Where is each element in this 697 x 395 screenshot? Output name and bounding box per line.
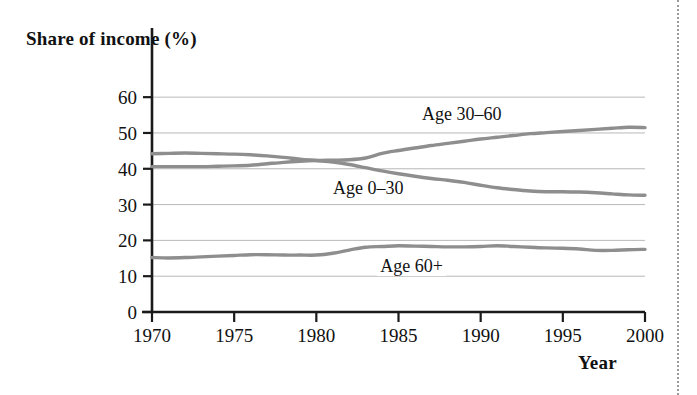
series-label-age-0-30: Age 0–30 [330,178,407,198]
y-axis-title: Share of income (%) [26,28,144,49]
series-label-age-30-60: Age 30–60 [419,104,505,124]
y-tick-label: 40 [93,160,137,179]
x-tick-label: 1980 [286,326,346,345]
x-tick-label: 1970 [122,326,182,345]
x-tick-label: 1990 [451,326,511,345]
y-tick-label: 10 [93,267,137,286]
right-dotted-divider [677,0,679,395]
x-tick-label: 1985 [369,326,429,345]
x-axis-title: Year [578,352,617,373]
x-tick-label: 2000 [615,326,675,345]
y-tick-label: 60 [93,88,137,107]
chart-figure: Share of income (%) Year 0102030405060 1… [0,0,697,395]
y-tick-label: 50 [93,124,137,143]
y-tick-label: 0 [93,303,137,322]
x-tick-label: 1995 [533,326,593,345]
x-tick-label: 1975 [204,326,264,345]
series-label-age-60-plus: Age 60+ [377,256,446,276]
y-tick-label: 20 [93,231,137,250]
y-tick-label: 30 [93,196,137,215]
